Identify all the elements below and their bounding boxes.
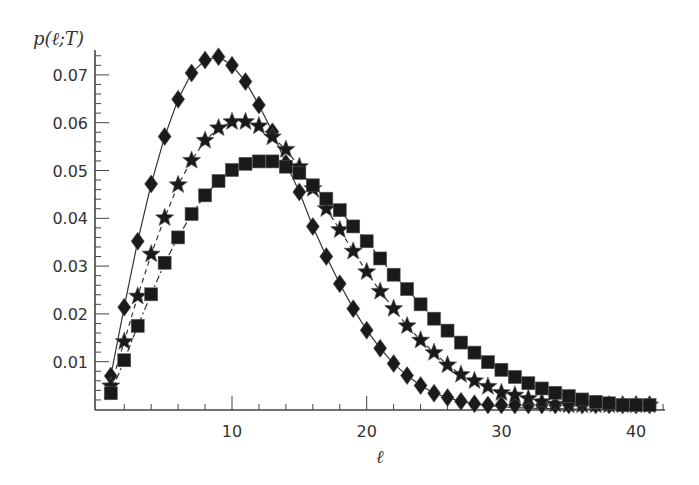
series-markers bbox=[102, 48, 659, 414]
diamond-marker bbox=[212, 48, 225, 66]
y-tick-label: 0.05 bbox=[52, 162, 88, 181]
diamond-marker bbox=[387, 355, 400, 373]
square-marker bbox=[401, 283, 414, 296]
square-marker bbox=[226, 164, 239, 177]
square-marker bbox=[158, 256, 171, 269]
star-marker bbox=[129, 287, 147, 304]
square-marker bbox=[293, 166, 306, 179]
star-marker bbox=[263, 128, 281, 145]
diamond-marker bbox=[454, 392, 467, 410]
diamond-marker bbox=[158, 128, 171, 146]
star-marker bbox=[385, 299, 403, 316]
y-tick-label: 0.03 bbox=[52, 257, 88, 276]
star-marker bbox=[331, 220, 349, 237]
square-marker bbox=[145, 288, 158, 301]
diamond-marker bbox=[199, 51, 212, 69]
square-marker bbox=[535, 382, 548, 395]
square-marker bbox=[333, 204, 346, 217]
square-marker bbox=[172, 231, 185, 244]
square-marker bbox=[320, 192, 333, 205]
star-marker bbox=[344, 242, 362, 259]
square-marker bbox=[185, 207, 198, 220]
diamond-marker bbox=[131, 232, 144, 250]
square-marker bbox=[199, 189, 212, 202]
star-marker bbox=[358, 262, 376, 279]
y-axis-title: p(ℓ;T) bbox=[33, 28, 84, 49]
square-marker bbox=[441, 324, 454, 337]
square-marker bbox=[603, 397, 616, 410]
square-marker bbox=[616, 399, 629, 412]
diamond-marker bbox=[333, 275, 346, 293]
square-marker bbox=[428, 312, 441, 325]
y-tick-label: 0.07 bbox=[52, 66, 88, 85]
square-marker bbox=[118, 354, 131, 367]
square-marker bbox=[481, 356, 494, 369]
square-marker bbox=[549, 386, 562, 399]
square-marker bbox=[266, 155, 279, 168]
square-marker bbox=[495, 363, 508, 376]
star-marker bbox=[142, 245, 160, 262]
chart: 102030400.010.020.030.040.050.060.07 p(ℓ… bbox=[0, 0, 699, 485]
diamond-marker bbox=[145, 175, 158, 193]
x-tick-label: 40 bbox=[626, 422, 646, 441]
star-marker bbox=[398, 316, 416, 333]
diamond-marker bbox=[252, 96, 265, 114]
diamond-marker bbox=[306, 217, 319, 235]
square-marker bbox=[562, 390, 575, 403]
x-tick-label: 30 bbox=[491, 422, 511, 441]
diamond-marker bbox=[441, 389, 454, 407]
square-marker bbox=[279, 160, 292, 173]
x-tick-label: 10 bbox=[222, 422, 242, 441]
square-marker bbox=[374, 252, 387, 265]
diamond-marker bbox=[481, 396, 494, 414]
square-marker bbox=[360, 235, 373, 248]
y-tick-label: 0.06 bbox=[52, 114, 88, 133]
x-axis-title: ℓ bbox=[376, 446, 384, 467]
star-marker bbox=[169, 175, 187, 192]
square-marker bbox=[454, 336, 467, 349]
x-tick-label: 20 bbox=[357, 422, 377, 441]
axes: 102030400.010.020.030.040.050.060.07 bbox=[52, 50, 665, 441]
square-marker bbox=[414, 298, 427, 311]
diamond-marker bbox=[401, 367, 414, 385]
diamond-marker bbox=[320, 248, 333, 266]
square-marker bbox=[576, 393, 589, 406]
diamond-marker bbox=[118, 298, 131, 316]
square-marker bbox=[387, 268, 400, 281]
square-marker bbox=[306, 179, 319, 192]
square-marker bbox=[212, 175, 225, 188]
square-marker bbox=[104, 387, 117, 400]
star-marker bbox=[465, 371, 483, 388]
square-marker bbox=[468, 346, 481, 359]
square-marker bbox=[630, 399, 643, 412]
square-marker bbox=[347, 220, 360, 233]
star-marker bbox=[196, 131, 214, 148]
y-tick-label: 0.01 bbox=[52, 353, 88, 372]
square-marker bbox=[643, 399, 656, 412]
square-marker bbox=[252, 155, 265, 168]
diamond-marker bbox=[428, 384, 441, 402]
square-marker bbox=[589, 395, 602, 408]
star-marker bbox=[371, 282, 389, 299]
square-marker bbox=[508, 370, 521, 383]
diamond-marker bbox=[414, 377, 427, 395]
square-marker bbox=[522, 377, 535, 390]
diamond-marker bbox=[172, 90, 185, 108]
star-marker bbox=[183, 151, 201, 168]
y-tick-label: 0.04 bbox=[52, 209, 88, 228]
square-marker bbox=[131, 319, 144, 332]
star-marker bbox=[115, 332, 133, 349]
diamond-marker bbox=[185, 64, 198, 82]
y-tick-label: 0.02 bbox=[52, 305, 88, 324]
star-marker bbox=[236, 112, 254, 129]
star-marker bbox=[156, 208, 174, 225]
square-marker bbox=[239, 157, 252, 170]
